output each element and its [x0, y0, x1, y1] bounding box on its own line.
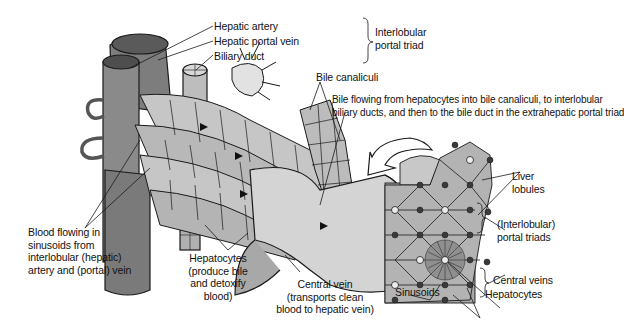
label-sinusoids: Sinusoids — [395, 286, 440, 299]
label-liver-lobules: Liver lobules — [512, 170, 545, 195]
label-portal-triads: (Interlobular) portal triads — [497, 218, 555, 243]
label-hepatic-artery: Hepatic artery — [214, 20, 278, 33]
label-hepatic-portal-vein: Hepatic portal vein — [214, 35, 299, 48]
label-central-vein: Central vein (transports clean blood to … — [275, 278, 375, 316]
label-interlobular-portal-triad: Interlobular portal triad — [375, 26, 426, 51]
lobule-inset — [385, 142, 493, 303]
label-blood-flow: Blood flowing in sinusoids from interlob… — [28, 226, 131, 276]
label-bile-flow: Bile flowing from hepatocytes into bile … — [332, 94, 624, 119]
label-biliary-duct: Biliary duct — [214, 50, 264, 63]
label-central-veins: Central veins — [493, 274, 553, 287]
label-hepatocytes-inset: Hepatocytes — [485, 288, 542, 301]
label-bile-canaliculi: Bile canaliculi — [316, 71, 378, 84]
label-hepatocytes-main: Hepatocytes (produce bile and detoxify b… — [178, 252, 258, 302]
central-vein-sheet — [235, 168, 401, 296]
